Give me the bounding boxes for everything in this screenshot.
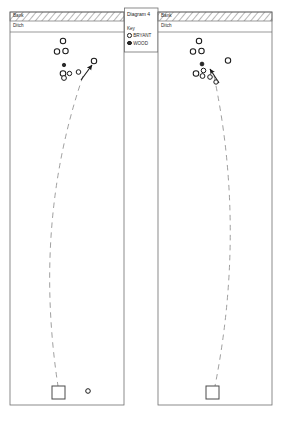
panel-left-bottom-circle bbox=[86, 389, 91, 394]
site-plan-svg bbox=[0, 0, 285, 429]
open-circle-icon bbox=[127, 33, 132, 38]
panel-left bbox=[10, 12, 124, 405]
panel-right-bank-label: Bank bbox=[161, 14, 172, 19]
key-heading: Key bbox=[127, 26, 135, 31]
panel-left-ditch-label: Ditch bbox=[13, 24, 24, 29]
panel-left-bank-label: Bank bbox=[13, 14, 24, 19]
panel-right-wood-points bbox=[200, 62, 204, 66]
panel-left-frame bbox=[10, 12, 124, 405]
key-entry-wood: WOOD bbox=[127, 41, 148, 46]
panel-left-bank-band bbox=[10, 12, 124, 21]
panel-right bbox=[158, 12, 272, 405]
key-entry-bryant-label: BRYANT bbox=[133, 33, 151, 38]
diagram-stage: Bank Ditch Bank Ditch Diagram 4 Key BRYA… bbox=[0, 0, 285, 429]
filled-circle-icon bbox=[127, 41, 132, 46]
panel-left-wood-points bbox=[62, 63, 65, 66]
panel-right-frame bbox=[158, 12, 272, 405]
panel-right-ditch-label: Ditch bbox=[161, 24, 172, 29]
panel-right-square-feature bbox=[206, 386, 219, 399]
panel-left-square-feature bbox=[52, 386, 65, 399]
key-entry-wood-label: WOOD bbox=[133, 41, 148, 46]
diagram-title: Diagram 4 bbox=[127, 11, 150, 17]
panel-right-bank-band bbox=[158, 12, 272, 21]
key-entry-bryant: BRYANT bbox=[127, 33, 151, 38]
